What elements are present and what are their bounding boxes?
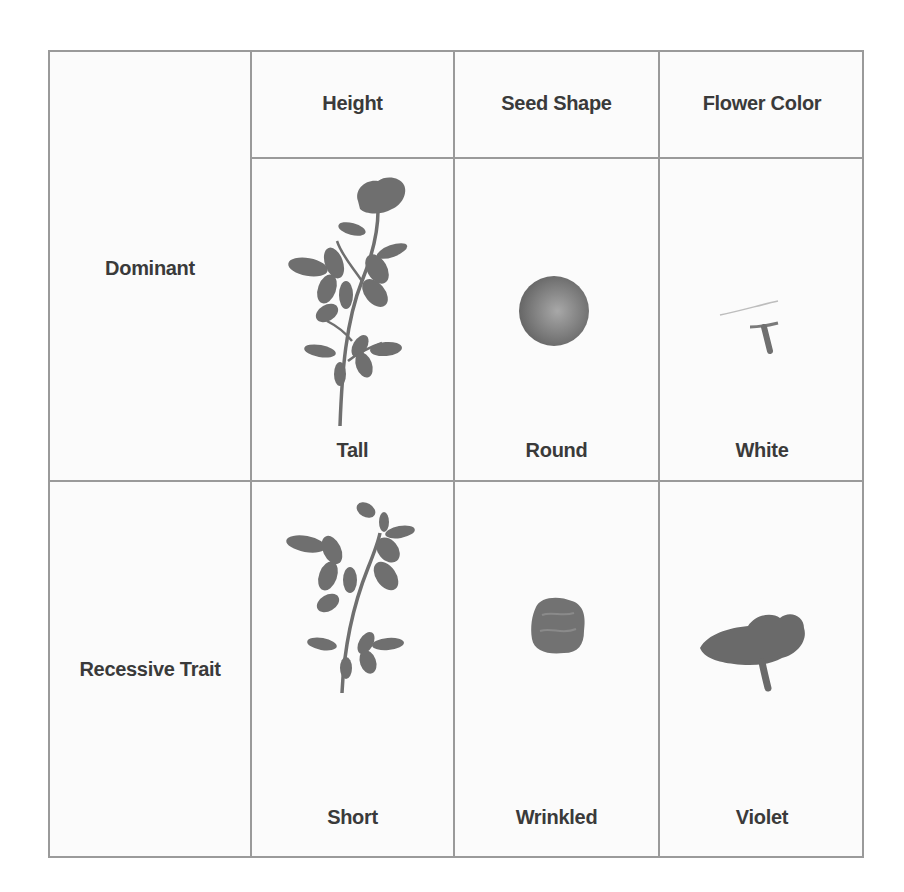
column-header-label: Height xyxy=(252,92,453,115)
trait-value-label: Tall xyxy=(252,439,453,462)
cell-dominant-flower-color: White xyxy=(660,159,864,480)
mendel-traits-table: Height Seed Shape Flower Color Dominant … xyxy=(48,50,864,858)
trait-value-label: Round xyxy=(455,439,658,462)
tall-plant-icon xyxy=(282,171,422,431)
round-seed-icon xyxy=(516,273,592,349)
cell-dominant-seed-shape: Round xyxy=(455,159,658,480)
column-header-height: Height xyxy=(252,52,453,157)
trait-value-label: Violet xyxy=(660,806,864,829)
cell-recessive-seed-shape: Wrinkled xyxy=(455,482,658,858)
row-header-recessive: Recessive Trait xyxy=(50,482,250,858)
wrinkled-seed-icon xyxy=(528,595,588,657)
column-header-label: Flower Color xyxy=(660,92,864,115)
row-header-label: Dominant xyxy=(50,257,250,280)
trait-value-label: Short xyxy=(252,806,453,829)
violet-flower-icon xyxy=(698,600,818,700)
cell-recessive-flower-color: Violet xyxy=(660,482,864,858)
column-header-flower-color: Flower Color xyxy=(660,52,864,157)
row-header-dominant: Dominant xyxy=(50,159,250,480)
cell-dominant-height: Tall xyxy=(252,159,453,480)
trait-value-label: White xyxy=(660,439,864,462)
column-header-seed-shape: Seed Shape xyxy=(455,52,658,157)
trait-value-label: Wrinkled xyxy=(455,806,658,829)
white-flower-icon xyxy=(710,279,810,369)
short-plant-icon xyxy=(282,498,422,698)
cell-recessive-height: Short xyxy=(252,482,453,858)
row-header-label: Recessive Trait xyxy=(50,658,250,681)
column-header-label: Seed Shape xyxy=(455,92,658,115)
